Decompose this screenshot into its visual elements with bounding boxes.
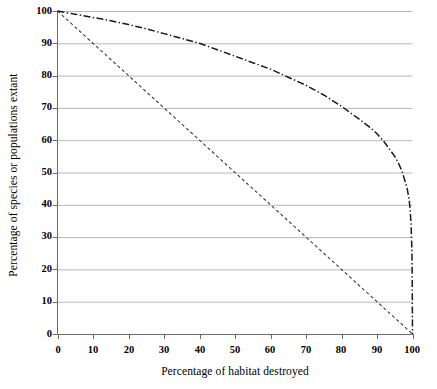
plot-area [0,0,437,389]
chart-figure: Percentage of species or populations ext… [0,0,437,389]
gridlines [58,12,413,303]
y-tick-marks [53,12,58,335]
